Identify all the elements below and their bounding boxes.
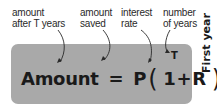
arrow-amount-saved [103,30,110,60]
annotation-arrows [0,0,217,112]
arrow-number-of-years [166,30,170,52]
side-label: First year [198,6,214,80]
side-label-text: First year [200,13,213,73]
arrow-amount-after [58,30,64,62]
arrow-interest-rate [141,30,151,62]
